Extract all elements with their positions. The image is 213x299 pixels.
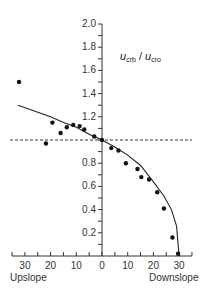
data-points [17,80,180,256]
data-point [170,235,174,239]
data-point [17,80,21,84]
y-tick-label: 0.6 [72,181,96,191]
x-label-upslope: Upslope [10,273,47,283]
data-point [50,120,54,124]
data-point [116,148,120,152]
fit-curve [18,105,179,256]
y-tick-label: 2.0 [72,19,96,29]
x-tick-label: 20 [41,261,61,271]
title-numerator-sub: crb [126,56,136,63]
y-tick-label: 0.2 [72,228,96,238]
data-point [147,177,151,181]
title-separator: / [136,50,145,62]
y-tick-label: 0.4 [72,205,96,215]
data-point [135,167,139,171]
data-point [162,206,166,210]
x-tick-label: 20 [143,261,163,271]
data-point [109,146,113,150]
y-tick-label: 0.8 [72,158,96,168]
y-tick-label: 1.6 [72,65,96,75]
data-point [82,127,86,131]
data-point [92,134,96,138]
data-point [100,138,104,142]
title-denominator-sub: cro [151,56,161,63]
x-tick-label: 10 [66,261,86,271]
y-tick-label: 1.8 [72,42,96,52]
x-tick-label: 0 [92,261,112,271]
data-point [71,123,75,127]
data-point [44,141,48,145]
data-point [77,124,81,128]
y-tick-label: 1.4 [72,89,96,99]
chart-canvas [0,0,213,299]
x-tick-label: 30 [169,261,189,271]
x-tick-label: 10 [118,261,138,271]
y-tick-label: 1.2 [72,112,96,122]
x-tick-label: 30 [15,261,35,271]
data-point [65,125,69,129]
chart-title: ucrb / ucro [120,50,161,63]
data-point [58,131,62,135]
data-point [176,251,180,255]
data-point [124,161,128,165]
x-label-downslope: Downslope [149,273,198,283]
data-point [139,175,143,179]
data-point [155,190,159,194]
